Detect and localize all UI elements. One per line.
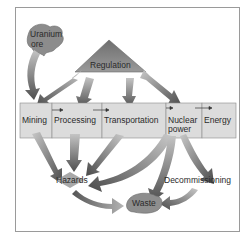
decommissioning-label: Decommissioning [164, 175, 231, 185]
stage-label-energy: Energy [204, 115, 232, 125]
stage-label-mining: Mining [22, 115, 47, 125]
arrow-processing-to-hazards [66, 134, 82, 172]
stage-label-transportation: Transportation [104, 115, 159, 125]
stage-label-processing: Processing [54, 115, 96, 125]
arrow-transportation-to-hazards [86, 134, 124, 176]
arrow-regulation-to-nuclear [140, 70, 182, 106]
arrow-decommissioning-to-waste [160, 188, 198, 210]
uranium-ore-label-line2: ore [31, 39, 44, 49]
regulation-label: Regulation [90, 60, 131, 70]
waste-label: Waste [132, 198, 156, 208]
arrow-hazards-to-waste [72, 190, 124, 214]
arrow-ore-to-mining [25, 50, 40, 100]
nuclear-fuel-cycle-diagram: Uranium ore Regulation Mining Processing… [0, 0, 251, 237]
arrow-regulation-to-mining [36, 70, 82, 108]
stage-label-nuclear-line2: power [168, 124, 191, 134]
hazards-label: Hazards [56, 175, 88, 185]
uranium-ore-label-line1: Uranium [30, 29, 62, 39]
